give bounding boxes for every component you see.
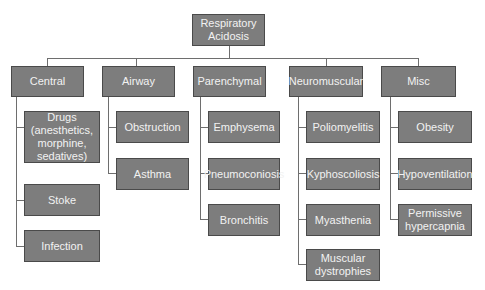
spine-central [16, 97, 17, 247]
node-stoke: Stoke [24, 184, 100, 216]
category-misc: Misc [381, 66, 456, 97]
node-emphysema: Emphysema [208, 111, 280, 143]
node-bronchitis: Bronchitis [208, 204, 280, 236]
connector-central [47, 58, 48, 66]
branch-neuromuscular-3 [298, 264, 306, 265]
branch-neuromuscular-1 [298, 173, 306, 174]
branch-central-2 [16, 246, 24, 247]
node-myasthenia: Myasthenia [306, 204, 380, 236]
node-poliomyelitis: Poliomyelitis [306, 111, 380, 143]
node-hypoventilation: Hypoventilation [398, 158, 472, 190]
branch-central-1 [16, 200, 24, 201]
branch-misc-2 [390, 219, 398, 220]
category-neuromuscular: Neuromuscular [289, 66, 363, 97]
node-permissive-hypercapnia: Permissive hypercapnia [398, 204, 472, 236]
category-parenchymal: Parenchymal [193, 66, 266, 97]
spine-parenchymal [200, 97, 201, 220]
branch-parenchymal-0 [200, 127, 208, 128]
category-airway: Airway [102, 66, 175, 97]
root-node: Respiratory Acidosis [192, 14, 265, 46]
node-drugs: Drugs (anesthetics, morphine, sedatives) [24, 111, 100, 163]
spine-airway [108, 97, 109, 174]
connector-misc [418, 58, 419, 66]
node-obstruction: Obstruction [116, 111, 189, 143]
connector-neuromuscular [326, 58, 327, 66]
branch-airway-1 [108, 173, 116, 174]
node-infection: Infection [24, 230, 100, 262]
level1-bus [47, 58, 419, 59]
category-central: Central [11, 66, 84, 97]
node-pneumoconiosis: Pneumoconiosis [208, 158, 280, 190]
spine-misc [390, 97, 391, 220]
node-asthma: Asthma [116, 158, 189, 190]
branch-central-0 [16, 127, 24, 128]
root-connector [229, 46, 230, 58]
branch-neuromuscular-2 [298, 219, 306, 220]
branch-airway-0 [108, 127, 116, 128]
node-kyphoscoliosis: Kyphoscoliosis [306, 158, 380, 190]
spine-neuromuscular [298, 97, 299, 265]
connector-airway [136, 58, 137, 66]
node-muscular-dystrophies: Muscular dystrophies [306, 249, 380, 281]
branch-neuromuscular-0 [298, 127, 306, 128]
node-obesity: Obesity [398, 111, 472, 143]
branch-parenchymal-2 [200, 219, 208, 220]
branch-misc-0 [390, 127, 398, 128]
